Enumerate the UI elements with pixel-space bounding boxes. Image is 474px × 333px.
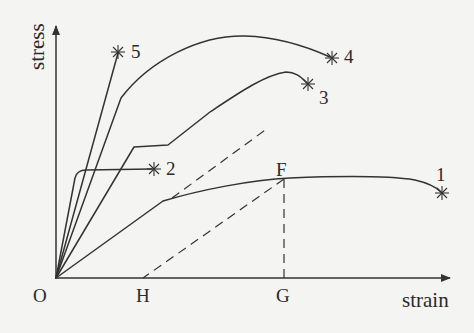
- fracture-star-2: [147, 162, 161, 176]
- x-axis-label: strain: [402, 288, 449, 312]
- point-g-label: G: [276, 285, 290, 306]
- point-h-label: H: [136, 285, 150, 306]
- curve-5: [56, 53, 118, 278]
- unload-line-f-h: [143, 179, 284, 278]
- fracture-star-5: [111, 45, 125, 59]
- origin-label: O: [33, 285, 47, 306]
- curve-1: [56, 177, 441, 278]
- curve-3-label: 3: [319, 87, 329, 108]
- curve-1-label: 1: [436, 164, 446, 185]
- y-axis-label: stress: [25, 23, 49, 70]
- point-f-label: F: [276, 159, 287, 180]
- fracture-star-4: [325, 51, 339, 65]
- curve-2-label: 2: [166, 158, 176, 179]
- stress-strain-diagram: stress strain O H G F 5 4 3 2 1: [0, 0, 474, 333]
- fracture-star-1: [435, 186, 449, 200]
- fracture-star-3: [301, 77, 315, 91]
- curve-5-label: 5: [131, 41, 141, 62]
- curve-4-label: 4: [344, 46, 354, 67]
